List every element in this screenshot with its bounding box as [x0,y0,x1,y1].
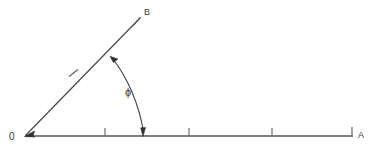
angle-diagram-svg: 0 A B ϕ [0,0,373,151]
angle-label-phi: ϕ [125,86,131,98]
figure-background [0,0,373,151]
ray-end-label-b: B [144,7,150,17]
origin-label: 0 [9,131,15,142]
geometry-figure: 0 A B ϕ [0,0,373,151]
axis-end-label-a: A [358,130,364,140]
